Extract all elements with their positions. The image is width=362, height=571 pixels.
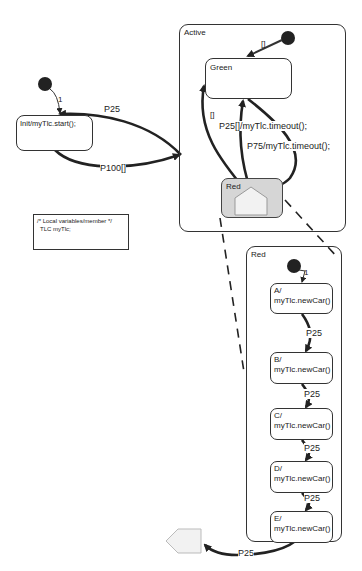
transition-label-exit[interactable]: P25 — [238, 548, 254, 558]
substate-b-name: B/ — [274, 355, 329, 365]
note-comment: /* Local variables/member */ — [37, 217, 125, 225]
substate-e-action: myTlc.newCar() — [274, 524, 329, 534]
substate-d-action: myTlc.newCar() — [274, 474, 329, 484]
substate-c[interactable]: C/ myTlc.newCar() — [270, 408, 333, 440]
state-red-detail-label: Red — [251, 250, 266, 260]
substate-e-name: E/ — [274, 514, 329, 524]
substate-b[interactable]: B/ myTlc.newCar() — [270, 352, 333, 384]
transition-label-a-b[interactable]: P25 — [306, 328, 322, 338]
substate-c-action: myTlc.newCar() — [274, 421, 329, 431]
initial-pseudostate-outer — [38, 77, 52, 91]
active-initial-guard: [] — [261, 39, 265, 49]
note-declaration: TLC myTlc; — [37, 225, 125, 233]
substate-c-name: C/ — [274, 411, 329, 421]
substate-d[interactable]: D/ myTlc.newCar() — [270, 461, 333, 493]
state-init[interactable]: Init/myTlc.start(); — [16, 115, 93, 151]
substate-e[interactable]: E/ myTlc.newCar() — [270, 511, 333, 543]
local-variables-note[interactable]: /* Local variables/member */ TLC myTlc; — [33, 214, 129, 250]
substate-a-name: A/ — [274, 286, 329, 296]
transition-label-c-d[interactable]: P25 — [304, 443, 320, 453]
state-init-label: Init/myTlc.start(); — [20, 119, 76, 129]
state-red[interactable]: Red — [221, 178, 283, 218]
transition-label-d-e[interactable]: P25 — [304, 493, 320, 503]
transition-label-p75-timeout[interactable]: P75/myTlc.timeout(); — [247, 141, 330, 151]
substate-a[interactable]: A/ myTlc.newCar() — [270, 283, 333, 314]
transition-label-p25-outer[interactable]: P25 — [104, 104, 120, 114]
state-active-label: Active — [184, 28, 206, 38]
state-green[interactable]: Green — [205, 58, 292, 99]
transition-label-p100[interactable]: P100[] — [100, 163, 126, 173]
transition-label-p25-timeout[interactable]: P25[]/myTlc.timeout(); — [219, 121, 307, 131]
transition-label-b-c[interactable]: P25 — [304, 389, 320, 399]
init-transition-label: 1 — [58, 95, 62, 105]
substate-d-name: D/ — [274, 464, 329, 474]
submachine-icon — [234, 186, 268, 216]
red-initial-label: 1 — [304, 268, 308, 278]
substate-b-action: myTlc.newCar() — [274, 365, 329, 375]
transition-label-red-green-guard[interactable]: [] — [210, 110, 214, 120]
substate-a-action: myTlc.newCar() — [274, 296, 329, 306]
state-green-label: Green — [210, 63, 232, 73]
exit-point-icon — [166, 529, 201, 553]
